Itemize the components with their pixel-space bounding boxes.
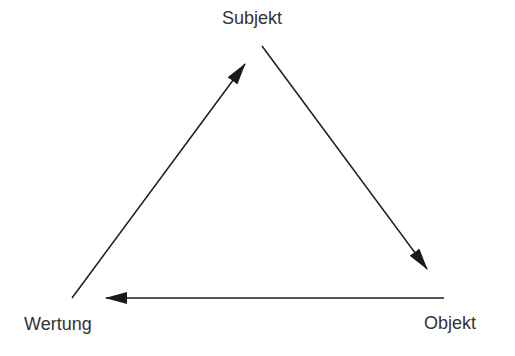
node-subjekt: Subjekt bbox=[222, 8, 282, 29]
edge-subjekt-to-objekt bbox=[262, 46, 427, 269]
node-wertung: Wertung bbox=[24, 314, 92, 335]
triangle-diagram: Subjekt Objekt Wertung bbox=[0, 0, 515, 356]
node-objekt: Objekt bbox=[424, 313, 476, 334]
diagram-arrows bbox=[0, 0, 515, 356]
edge-wertung-to-subjekt bbox=[72, 64, 245, 298]
